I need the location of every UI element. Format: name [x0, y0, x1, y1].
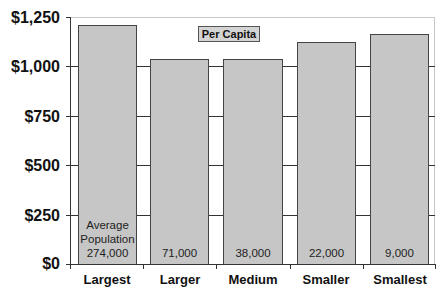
bar-annotation: 22,000	[298, 246, 355, 260]
y-tick	[66, 66, 71, 67]
x-axis	[70, 264, 436, 265]
x-tick	[143, 264, 144, 269]
y-tick-label: $500	[24, 157, 60, 175]
bar-annotation: 9,000	[371, 246, 428, 260]
bar-larger: 71,000	[150, 59, 209, 265]
x-tick	[290, 264, 291, 269]
per-capita-bar-chart: Average Population 274,000 71,000 38,000…	[0, 0, 443, 305]
y-tick-label: $250	[24, 207, 60, 225]
y-tick-label: $1,000	[11, 58, 60, 76]
annotation-line: Population	[79, 232, 136, 246]
bar-annotation: 71,000	[151, 246, 208, 260]
bar-annotation: Average Population 274,000	[79, 218, 136, 260]
y-tick-label: $1,250	[11, 9, 60, 27]
x-tick	[435, 264, 436, 269]
y-tick-label: $750	[24, 108, 60, 126]
x-tick-label: Medium	[213, 272, 293, 287]
y-tick	[66, 17, 71, 18]
annotation-line: Average	[79, 218, 136, 232]
y-tick	[66, 165, 71, 166]
bar-largest: Average Population 274,000	[78, 25, 137, 265]
x-tick-label: Largest	[67, 272, 147, 287]
x-tick	[216, 264, 217, 269]
bar-annotation: 38,000	[224, 246, 282, 260]
x-tick	[70, 264, 71, 269]
y-axis	[70, 17, 71, 265]
bar-medium: 38,000	[223, 59, 283, 265]
x-tick-label: Smallest	[360, 272, 440, 287]
y-tick	[66, 215, 71, 216]
y-tick-label: $0	[42, 255, 60, 273]
bar-smallest: 9,000	[370, 34, 429, 265]
y-tick	[66, 116, 71, 117]
legend: Per Capita	[198, 26, 260, 42]
annotation-line: 274,000	[79, 246, 136, 260]
x-tick-label: Smaller	[286, 272, 366, 287]
x-tick-label: Larger	[140, 272, 220, 287]
x-tick	[363, 264, 364, 269]
bar-smaller: 22,000	[297, 42, 356, 265]
